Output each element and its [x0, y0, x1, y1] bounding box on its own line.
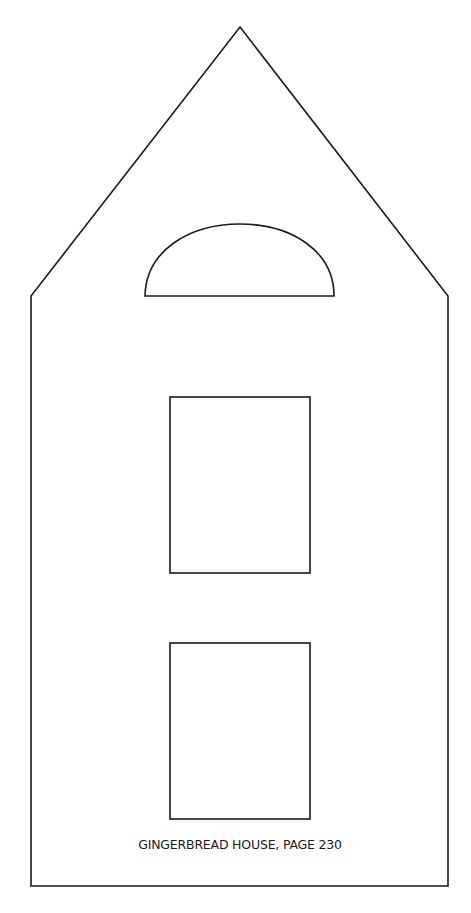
template-caption: GINGERBREAD HOUSE, PAGE 230	[0, 837, 471, 852]
gingerbread-house-template	[0, 0, 471, 913]
upper-window	[170, 397, 310, 573]
semicircle-window	[145, 224, 334, 296]
house-outline	[31, 27, 448, 886]
lower-window	[170, 643, 310, 819]
